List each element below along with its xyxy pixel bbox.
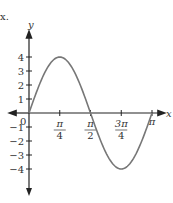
svg-text:−2: −2 xyxy=(9,136,24,147)
svg-text:π: π xyxy=(55,118,63,129)
svg-text:1: 1 xyxy=(18,94,24,105)
svg-text:3π: 3π xyxy=(115,118,128,129)
svg-text:4: 4 xyxy=(18,52,24,63)
svg-text:4: 4 xyxy=(57,130,63,141)
y-axis-label: y xyxy=(27,19,34,30)
x-ticks: π4π23π4π xyxy=(54,110,156,141)
svg-text:2: 2 xyxy=(18,80,24,91)
sine-chart: x. y x 0 4321−1−2−3−4 π4π23π4π xyxy=(0,0,173,203)
corner-mark: x. xyxy=(0,11,9,22)
x-axis-label: x xyxy=(166,108,172,119)
svg-text:−1: −1 xyxy=(9,122,24,133)
svg-text:−4: −4 xyxy=(9,164,24,175)
svg-text:3: 3 xyxy=(18,66,24,77)
svg-text:−3: −3 xyxy=(9,150,24,161)
svg-text:2: 2 xyxy=(87,130,93,141)
svg-text:4: 4 xyxy=(118,130,124,141)
